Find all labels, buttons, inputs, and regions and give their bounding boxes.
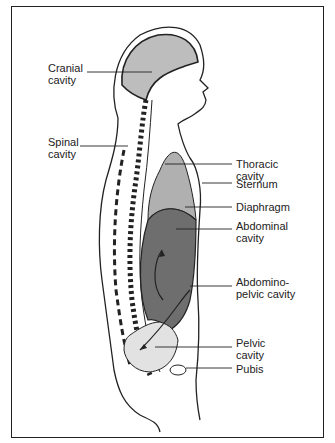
label-spinal-cavity: Spinal cavity [48, 136, 79, 160]
label-diaphragm: Diaphragm [236, 201, 290, 213]
label-abdominopelvic-cavity: Abdomino- pelvic cavity [236, 276, 295, 300]
cranial-cavity [122, 34, 198, 100]
label-abdominal-cavity: Abdominal cavity [236, 220, 288, 244]
label-pubis: Pubis [236, 363, 264, 375]
label-cranial-cavity: Cranial cavity [48, 62, 83, 86]
pubis-bone [170, 365, 186, 375]
label-sternum: Sternum [236, 178, 278, 190]
abdominal-cavity [140, 209, 196, 330]
label-pelvic-cavity: Pelvic cavity [236, 337, 265, 361]
